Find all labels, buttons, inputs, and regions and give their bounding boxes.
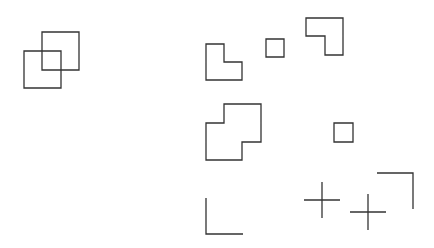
cross-right (350, 194, 386, 230)
small-square-top (266, 39, 284, 57)
reverse-l-shape (306, 18, 343, 55)
shapes-drawing (0, 0, 434, 248)
corner-bottom-left (206, 198, 243, 234)
diagram-canvas (0, 0, 434, 248)
small-square-middle (334, 123, 353, 142)
cross-left (304, 182, 340, 218)
step-shape (206, 104, 261, 160)
l-shape (206, 44, 242, 80)
corner-top-right (377, 173, 413, 209)
